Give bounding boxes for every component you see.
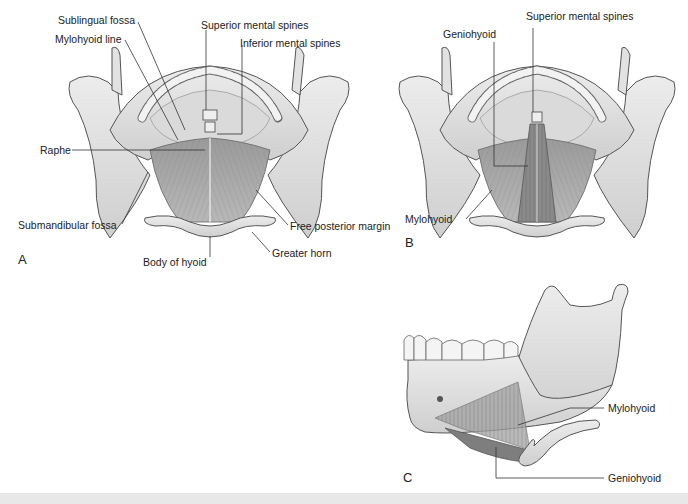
panel-c-mandible-lateral	[404, 284, 628, 466]
label-geniohyoid-c: Geniohyoid	[608, 472, 661, 484]
label-mylohyoid-line: Mylohyoid line	[55, 33, 122, 45]
anatomy-figure: Sublingual fossa Mylohyoid line Superior…	[0, 0, 688, 504]
label-raphe: Raphe	[40, 144, 71, 156]
panel-letter-b: B	[405, 235, 414, 250]
label-inferior-mental-spines: Inferior mental spines	[240, 37, 340, 49]
label-sublingual-fossa: Sublingual fossa	[58, 14, 135, 26]
label-mylohyoid-c: Mylohyoid	[608, 402, 655, 414]
label-mylohyoid-b: Mylohyoid	[405, 213, 452, 225]
label-geniohyoid-b: Geniohyoid	[443, 28, 496, 40]
panel-letter-a: A	[18, 252, 27, 267]
label-superior-mental-spines-b: Superior mental spines	[526, 10, 633, 22]
label-submandibular-fossa: Submandibular fossa	[18, 219, 117, 231]
panel-a-mandible	[69, 47, 349, 238]
label-free-posterior-margin: Free posterior margin	[290, 220, 390, 232]
panel-b-mandible	[399, 47, 675, 238]
figure-artwork	[0, 0, 688, 504]
bottom-margin-bar	[0, 493, 688, 504]
label-superior-mental-spines-a: Superior mental spines	[201, 19, 308, 31]
label-greater-horn: Greater horn	[272, 247, 332, 259]
panel-letter-c: C	[403, 470, 412, 485]
label-body-of-hyoid: Body of hyoid	[143, 256, 207, 268]
